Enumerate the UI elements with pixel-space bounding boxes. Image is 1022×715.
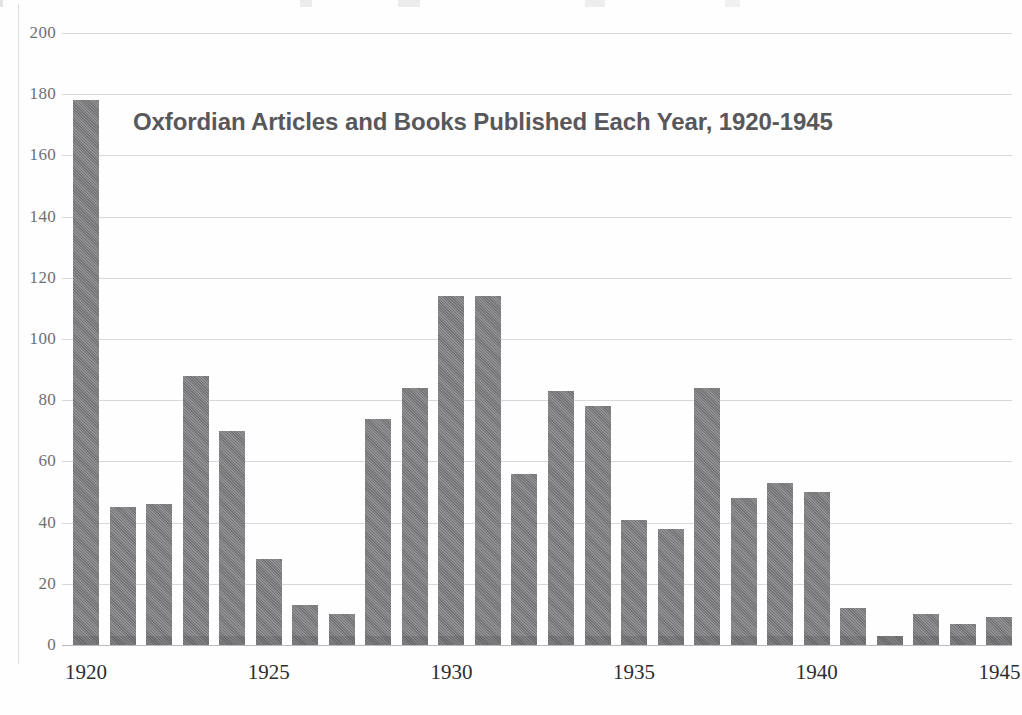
chart-title: Oxfordian Articles and Books Published E… bbox=[133, 108, 833, 136]
x-axis-tick-label: 1940 bbox=[796, 660, 838, 685]
x-axis-tick-label: 1930 bbox=[430, 660, 472, 685]
x-axis-tick-label: 1925 bbox=[248, 660, 290, 685]
bar-chart: 020406080100120140160180200 192019251930… bbox=[0, 0, 1022, 715]
x-axis-tick-label: 1945 bbox=[978, 660, 1020, 685]
x-axis-tick-label: 1935 bbox=[613, 660, 655, 685]
scanned-page-background: 020406080100120140160180200 192019251930… bbox=[0, 0, 1022, 715]
x-axis-tick-label: 1920 bbox=[65, 660, 107, 685]
